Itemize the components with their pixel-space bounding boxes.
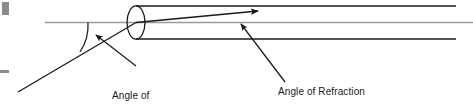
corner-marker: [2, 2, 9, 15]
left-edge-tick: [0, 70, 9, 73]
angle-of-incidence-label: Angle of Incidence: [112, 67, 156, 109]
refracted-ray: [136, 11, 258, 23]
incidence-leader-line: [96, 35, 136, 66]
angle-of-incidence-arc: [80, 23, 88, 53]
refraction-leader-line: [241, 24, 285, 82]
angle-of-incidence-label-line1: Angle of: [112, 90, 156, 102]
refraction-diagram: Angle of Incidence Angle of Refraction: [0, 0, 473, 109]
refraction-illustration: [0, 0, 473, 109]
angle-of-refraction-label: Angle of Refraction: [278, 86, 365, 98]
